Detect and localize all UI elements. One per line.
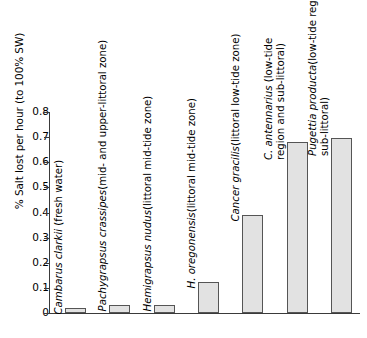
y-tick-mark [44, 313, 49, 314]
y-tick: 0.8 [0, 112, 49, 113]
y-tick-label: 0.6 [7, 156, 49, 166]
bar [242, 215, 263, 313]
y-tick-mark [44, 162, 49, 163]
y-tick-label: 0.7 [7, 131, 49, 141]
y-tick-label: 0.3 [7, 232, 49, 242]
species-name: Cambarus clarkii [52, 229, 63, 315]
species-name: Hemigrapsus nudus [141, 210, 152, 312]
species-name: Cancer gracilis [230, 146, 241, 221]
bar [331, 138, 352, 313]
x-axis-line [49, 313, 360, 314]
species-name: C. antennarius [263, 86, 274, 161]
bar [198, 282, 219, 313]
bar-category-label: Cancer gracilis(littoral low-tide zone) [230, 34, 242, 222]
y-tick-label: 0 [7, 307, 49, 317]
y-tick-mark [44, 187, 49, 188]
bar [65, 308, 86, 313]
bar-category-label: C. antennarius (low-tideregion and sub-l… [263, 38, 286, 160]
y-tick-label: 0.4 [7, 207, 49, 217]
y-tick-mark [44, 137, 49, 138]
bar [154, 305, 175, 313]
plot-area: 0.80.70.60.50.40.30.20.10 Cambarus clark… [49, 112, 360, 313]
y-tick: 0.7 [0, 137, 49, 138]
y-tick-label: 0.8 [7, 106, 49, 116]
bar-chart-figure: % Salt lost per hour (to 100% SW) 0.80.7… [0, 0, 367, 338]
y-tick-mark [44, 213, 49, 214]
habitat-line: sub-littoral) [319, 0, 331, 156]
bar-category-label: H. oregonensis(littoral mid-tide zone) [186, 98, 198, 289]
y-tick-mark [44, 238, 49, 239]
species-name: Pachygrapsus crassipes [97, 190, 108, 312]
y-tick-mark [44, 288, 49, 289]
y-axis-title: % Salt lost per hour (to 100% SW) [13, 16, 25, 226]
y-tick: 0.5 [0, 187, 49, 188]
bar [287, 142, 308, 313]
y-tick-mark [44, 263, 49, 264]
y-tick-label: 0.1 [7, 282, 49, 292]
habitat-line: region and sub-littoral) [274, 38, 286, 160]
y-tick: 0.4 [0, 213, 49, 214]
bar [109, 305, 130, 313]
species-name: H. oregonensis [186, 212, 197, 288]
species-name: Pugettia producta [307, 65, 318, 156]
y-tick-label: 0.2 [7, 257, 49, 267]
y-tick-mark [44, 112, 49, 113]
y-tick: 0.2 [0, 263, 49, 264]
y-tick: 0.1 [0, 288, 49, 289]
bar-category-label: Hemigrapsus nudus(littoral mid-tide zone… [141, 96, 153, 312]
y-axis-line [49, 112, 50, 313]
y-tick: 0 [0, 313, 49, 314]
y-tick: 0.6 [0, 162, 49, 163]
y-tick: 0.3 [0, 238, 49, 239]
bar-category-label: Cambarus clarkii (fresh water) [52, 160, 64, 315]
bar-category-label: Pachygrapsus crassipes(mid- and upper-li… [97, 40, 109, 312]
bar-category-label: Pugettia producta(low-tide region andsub… [307, 0, 330, 156]
y-tick-label: 0.5 [7, 181, 49, 191]
